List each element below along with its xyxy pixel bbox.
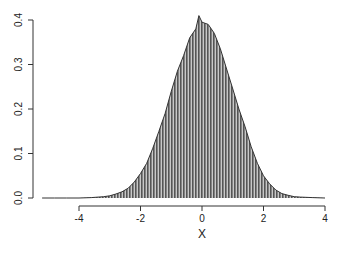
y-tick-label: 0.3 [13,57,24,71]
y-tick-label: 0.4 [13,13,24,27]
y-axis: 0.00.10.20.30.4 [13,13,33,205]
x-tick-label: 2 [261,213,267,224]
y-tick-label: 0.1 [13,146,24,160]
density-chart: 0.00.10.20.30.4 -4-2024 X [0,0,344,254]
y-tick-label: 0.2 [13,102,24,116]
x-axis-label: X [198,227,206,241]
x-tick-label: 4 [322,213,328,224]
density-area [42,16,325,198]
x-tick-label: -2 [136,213,145,224]
x-axis: -4-2024 [75,206,329,224]
plot-area [42,16,325,198]
x-tick-label: -4 [75,213,84,224]
y-tick-label: 0.0 [13,191,24,205]
x-tick-label: 0 [199,213,205,224]
